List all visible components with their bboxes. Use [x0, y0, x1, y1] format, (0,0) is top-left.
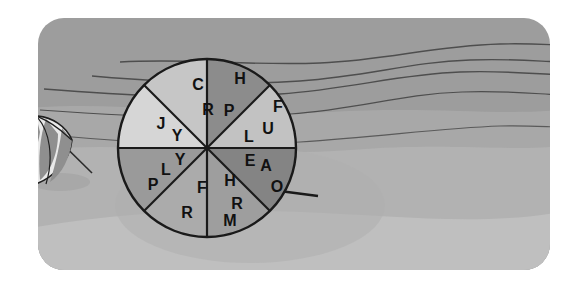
wheel-letter-r-top: R	[202, 101, 214, 118]
wheel-letter-o: O	[271, 178, 283, 195]
wheel-letter-a: A	[260, 157, 272, 174]
beach-wheel-scene: C R H P F U L E A O H R M F R Y L P J Y	[0, 0, 585, 285]
wheel-letter-u: U	[262, 120, 274, 137]
wheel-letter-h-bottom: H	[224, 172, 236, 189]
wheel-letter-y-left-upper: Y	[172, 127, 183, 144]
wheel-letter-r-bottom-left: R	[181, 204, 193, 221]
wheel-letter-f-bottom: F	[197, 179, 207, 196]
wheel-letter-p-left: P	[148, 176, 159, 193]
wheel-letter-m: M	[223, 212, 236, 229]
scene-canvas: C R H P F U L E A O H R M F R Y L P J Y	[0, 0, 585, 285]
illustration-card: C R H P F U L E A O H R M F R Y L P J Y	[15, 10, 578, 280]
wheel-letter-c: C	[192, 76, 204, 93]
wheel-letter-h-top: H	[234, 70, 246, 87]
wheel-letter-j: J	[157, 115, 166, 132]
wheel-letter-e: E	[245, 152, 256, 169]
wheel-letter-r-bottom-right: R	[231, 195, 243, 212]
wheel-letter-f-right: F	[273, 98, 283, 115]
wheel-letter-l-right: L	[244, 128, 254, 145]
wheel-letter-y-left-lower: Y	[175, 151, 186, 168]
wheel-letter-l-left: L	[161, 161, 171, 178]
wheel-letter-p-top: P	[224, 102, 235, 119]
